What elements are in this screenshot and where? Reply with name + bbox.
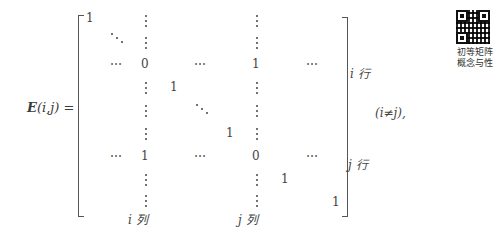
hdots-icon: ⋯ — [194, 58, 205, 70]
i-row-label: i 行 — [350, 68, 370, 80]
matrix-entry: 0 — [252, 150, 260, 162]
matrix-entry: 1 — [170, 81, 178, 93]
matrix-entry: 1 — [141, 150, 149, 162]
qr-caption-line2: 概念与性 — [452, 58, 498, 69]
matrix-args: (i,j) — [37, 100, 59, 115]
matrix-symbol: E — [27, 100, 37, 115]
vdots-icon — [256, 195, 258, 210]
j-column-label: j 列 — [238, 214, 258, 226]
hdots-icon: ⋯ — [306, 150, 317, 162]
matrix-entry: 1 — [86, 12, 94, 24]
vdots-icon — [145, 15, 147, 30]
matrix-entry: 1 — [226, 127, 234, 139]
hdots-icon: ⋯ — [194, 150, 205, 162]
vdots-icon — [145, 174, 147, 189]
matrix-entry: 0 — [141, 58, 149, 70]
vdots-icon — [256, 82, 258, 97]
qr-code[interactable] — [456, 10, 490, 44]
i-column-label: i 列 — [128, 214, 148, 226]
right-bracket — [342, 17, 348, 217]
vdots-icon — [145, 105, 147, 120]
vdots-icon — [145, 128, 147, 143]
qr-caption-line1: 初等矩阵 — [452, 47, 498, 58]
j-row-label: j 行 — [348, 159, 368, 171]
vdots-icon — [256, 37, 258, 52]
equals-sign: = — [64, 100, 75, 115]
vdots-icon — [145, 195, 147, 210]
matrix-entry: 1 — [281, 173, 289, 185]
qr-caption: 初等矩阵 概念与性 — [452, 47, 498, 69]
matrix-entry: 1 — [252, 58, 260, 70]
hdots-icon: ⋯ — [110, 58, 121, 70]
vdots-icon — [145, 37, 147, 52]
matrix-name: E(i,j) = — [27, 101, 74, 114]
hdots-icon: ⋯ — [110, 150, 121, 162]
vdots-icon — [256, 128, 258, 143]
ddots-icon — [111, 33, 123, 43]
vdots-icon — [256, 15, 258, 30]
vdots-icon — [256, 105, 258, 120]
vdots-icon — [256, 174, 258, 189]
condition-text: (i≠j), — [375, 107, 406, 119]
matrix-entry: 1 — [332, 196, 340, 208]
left-bracket — [78, 15, 84, 217]
ddots-icon — [196, 104, 208, 114]
vdots-icon — [145, 82, 147, 97]
hdots-icon: ⋯ — [306, 58, 317, 70]
